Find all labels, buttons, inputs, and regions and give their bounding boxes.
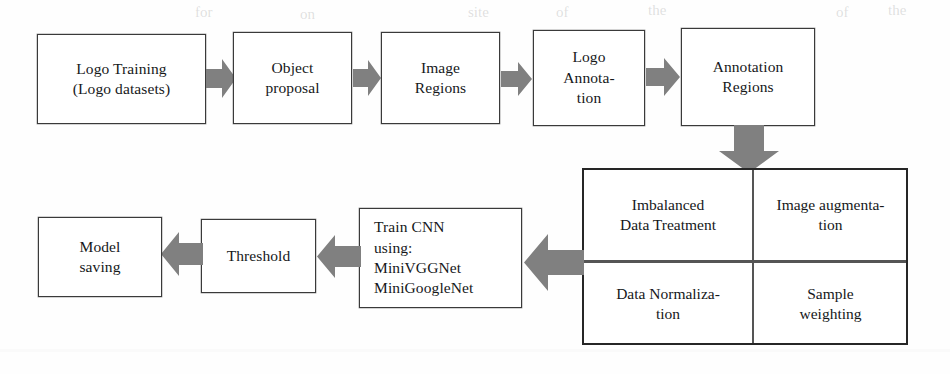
node-model-saving[interactable]: Model saving bbox=[38, 217, 162, 297]
arrow-panel-to-train-cnn bbox=[524, 232, 584, 293]
arrow-threshold-to-model-saving bbox=[161, 230, 203, 278]
panel-cell-imbalanced-data-treatment-label: Imbalanced Data Treatment bbox=[620, 195, 716, 235]
node-logo-training[interactable]: Logo Training (Logo datasets) bbox=[37, 34, 206, 124]
panel-vertical-divider bbox=[752, 170, 754, 343]
scan-ghost-text: of bbox=[836, 4, 849, 21]
panel-horizontal-divider bbox=[584, 260, 906, 263]
scan-ghost-text: site bbox=[468, 4, 489, 21]
node-logo-training-label: Logo Training (Logo datasets) bbox=[69, 59, 174, 100]
scan-ghost-text: the bbox=[888, 2, 906, 19]
flowchart-diagram: for on site of the of the Logo Training … bbox=[0, 0, 950, 374]
panel-cell-sample-weighting-label: Sample weighting bbox=[800, 284, 862, 324]
node-object-proposal[interactable]: Object proposal bbox=[233, 32, 352, 124]
scan-ghost-text: for bbox=[195, 4, 213, 21]
node-logo-annotation-label: Logo Annota- tion bbox=[559, 47, 619, 108]
node-logo-annotation[interactable]: Logo Annota- tion bbox=[533, 30, 645, 126]
node-image-regions-label: Image Regions bbox=[411, 58, 471, 99]
node-train-cnn-label: Train CNN using: MiniVGGNet MiniGoogleNe… bbox=[360, 217, 477, 299]
arrow-logo-training-to-object-proposal bbox=[206, 57, 236, 100]
panel-cell-image-augmentation[interactable]: Image augmenta- tion bbox=[755, 170, 906, 260]
node-annotation-regions-label: Annotation Regions bbox=[709, 57, 788, 98]
panel-cell-imbalanced-data-treatment[interactable]: Imbalanced Data Treatment bbox=[584, 170, 752, 260]
scan-ghost-text: of bbox=[556, 4, 569, 21]
scan-ghost-text: the bbox=[648, 2, 666, 19]
node-annotation-regions[interactable]: Annotation Regions bbox=[681, 28, 815, 126]
node-image-regions[interactable]: Image Regions bbox=[381, 32, 500, 124]
scan-ghost-text: on bbox=[300, 6, 315, 23]
arrow-annotation-regions-to-panel bbox=[717, 125, 781, 173]
node-threshold[interactable]: Threshold bbox=[201, 219, 316, 293]
arrow-object-proposal-to-image-regions bbox=[353, 58, 381, 98]
node-model-saving-label: Model saving bbox=[75, 237, 124, 278]
arrow-logo-annotation-to-annotation-regions bbox=[646, 56, 680, 98]
panel-cell-sample-weighting[interactable]: Sample weighting bbox=[755, 265, 906, 343]
scan-smudge bbox=[0, 349, 950, 352]
panel-cell-data-normalization[interactable]: Data Normaliza- tion bbox=[584, 265, 752, 343]
node-train-cnn[interactable]: Train CNN using: MiniVGGNet MiniGoogleNe… bbox=[359, 208, 522, 308]
arrow-train-cnn-to-threshold bbox=[317, 233, 361, 280]
node-object-proposal-label: Object proposal bbox=[261, 58, 323, 99]
panel-cell-data-normalization-label: Data Normaliza- tion bbox=[616, 284, 720, 324]
node-threshold-label: Threshold bbox=[223, 246, 295, 266]
panel-cell-image-augmentation-label: Image augmenta- tion bbox=[776, 195, 884, 235]
arrow-image-regions-to-logo-annotation bbox=[501, 60, 532, 98]
data-preparation-panel: Imbalanced Data Treatment Image augmenta… bbox=[582, 168, 908, 345]
